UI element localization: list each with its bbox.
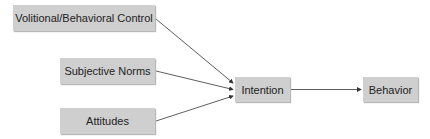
node-label: Attitudes xyxy=(86,115,129,127)
arrow-attitudes-intention xyxy=(156,96,233,121)
node-volitional-behavioral-control: Volitional/Behavioral Control xyxy=(13,5,155,31)
node-intention: Intention xyxy=(235,77,290,102)
node-label: Subjective Norms xyxy=(64,65,150,77)
node-attitudes: Attitudes xyxy=(60,108,155,134)
node-behavior: Behavior xyxy=(363,77,418,102)
node-label: Behavior xyxy=(369,84,412,96)
node-label: Volitional/Behavioral Control xyxy=(15,12,153,24)
node-subjective-norms: Subjective Norms xyxy=(60,58,155,84)
node-label: Intention xyxy=(241,84,283,96)
